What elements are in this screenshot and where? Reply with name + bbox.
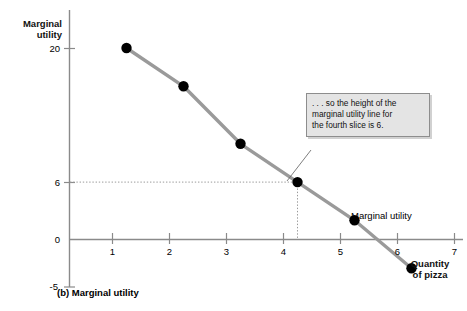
x-tick-label-3: 3 — [219, 246, 235, 257]
data-point-3 — [235, 139, 245, 149]
data-point-2 — [178, 81, 188, 91]
x-tick-label-5: 5 — [333, 246, 349, 257]
y-axis-title-line2: utility — [6, 29, 62, 40]
annotation-line1: . . . so the height of the — [312, 98, 424, 109]
data-point-1 — [121, 43, 131, 53]
y-tick-label-minus5: -5 — [36, 281, 58, 292]
annotation-line3: the fourth slice is 6. — [312, 120, 424, 131]
x-axis-title-line2: of pizza — [398, 269, 462, 280]
y-tick-label-6: 6 — [38, 177, 60, 188]
chart-container: Marginal utility Quantity of pizza 20 6 … — [0, 0, 467, 311]
chart-plot-area — [0, 0, 467, 311]
data-point-4 — [292, 177, 302, 187]
x-tick-label-4: 4 — [276, 246, 292, 257]
y-tick-label-20: 20 — [38, 43, 60, 54]
x-axis-title: Quantity of pizza — [398, 258, 462, 280]
x-tick-label-2: 2 — [162, 246, 178, 257]
annotation-line2: marginal utility line for — [312, 109, 424, 120]
callout-leader-line — [287, 150, 311, 181]
y-axis-title-line1: Marginal — [6, 18, 62, 29]
x-tick-label-7: 7 — [447, 246, 463, 257]
series-label-marginal-utility: Marginal utility — [351, 210, 412, 221]
x-tick-label-6: 6 — [390, 246, 406, 257]
x-axis-title-line1: Quantity — [398, 258, 462, 269]
x-tick-label-1: 1 — [105, 246, 121, 257]
figure-caption: (b) Marginal utility — [57, 287, 139, 298]
y-axis-title: Marginal utility — [6, 18, 62, 40]
y-tick-label-0: 0 — [38, 234, 60, 245]
annotation-callout: . . . so the height of the marginal util… — [306, 93, 430, 137]
